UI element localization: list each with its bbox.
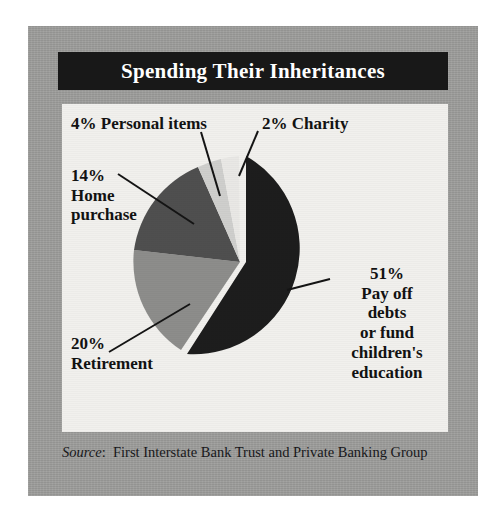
slice-label-pay-off-debts: 51% Pay off debts or fund children's edu…	[334, 264, 440, 382]
slice-label-charity: 2% Charity	[262, 114, 348, 134]
slice-label-home-purchase: 14% Home purchase	[71, 166, 137, 225]
title-banner: Spending Their Inheritances	[58, 52, 448, 90]
source-prefix: Source	[62, 444, 102, 460]
source-text: First Interstate Bank Trust and Private …	[113, 444, 428, 460]
slice-label-personal-items: 4% Personal items	[71, 114, 207, 134]
source-credit: Source: First Interstate Bank Trust and …	[62, 444, 462, 461]
figure-container: Spending Their Inheritances 4% Personal …	[0, 0, 504, 518]
source-separator: :	[102, 444, 106, 460]
slice-label-retirement: 20% Retirement	[71, 334, 153, 373]
pie-chart-plot-area: 4% Personal items 2% Charity 14% Home pu…	[62, 104, 448, 432]
page-title: Spending Their Inheritances	[58, 59, 448, 84]
